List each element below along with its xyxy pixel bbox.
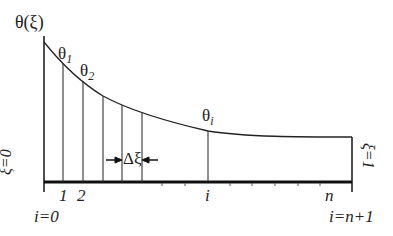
node-label-1: 1 [59,186,68,206]
theta-curve [44,42,352,137]
left-boundary-label: ξ=0 [0,149,15,175]
node-label-n: n [325,186,334,206]
y-axis-label: θ(ξ) [15,12,44,33]
thetai-label: θi [202,106,214,129]
left-index-label: i=0 [34,207,59,227]
theta1-label: θ1 [58,44,72,67]
node-label-2: 2 [77,186,86,206]
right-index-label: i=n+1 [329,207,374,227]
node-label-i: i [205,186,210,206]
theta2-label: θ2 [80,61,94,84]
right-boundary-label: ξ=1 [359,143,377,169]
discretization-diagram: θ(ξ) θ1 θ2 θi Δξ ξ=0 ξ=1 1 2 i n i=0 i=n… [0,0,393,236]
delta-xi-label: Δξ [123,149,142,169]
